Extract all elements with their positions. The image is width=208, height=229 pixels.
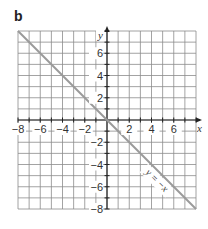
- y-axis-label: y: [97, 29, 103, 41]
- coordinate-plane-chart: −8−6−4−2246642−2−4−6−8xyy = −x: [0, 0, 208, 229]
- x-tick-label: −2: [78, 123, 91, 135]
- x-tick-label: 2: [126, 123, 132, 135]
- y-tick-label: 4: [97, 70, 103, 82]
- x-tick-label: 4: [148, 123, 154, 135]
- y-tick-label: −4: [90, 159, 103, 171]
- y-tick-label: −2: [90, 136, 103, 148]
- x-tick-label: −6: [34, 123, 47, 135]
- y-tick-label: 6: [97, 47, 103, 59]
- x-tick-label: −8: [12, 123, 25, 135]
- y-tick-label: −8: [90, 203, 103, 215]
- y-tick-label: 2: [97, 92, 103, 104]
- y-tick-label: −6: [90, 181, 103, 193]
- x-tick-label: −4: [56, 123, 69, 135]
- x-tick-label: 6: [171, 123, 177, 135]
- x-axis-label: x: [196, 122, 202, 134]
